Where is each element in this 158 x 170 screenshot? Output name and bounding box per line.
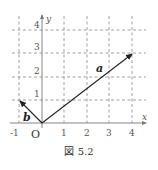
x-tick-neg1: -1	[10, 128, 19, 138]
y-tick-2: 2	[34, 66, 40, 76]
y-tick-1: 1	[34, 89, 40, 99]
y-tick-3: 3	[34, 42, 40, 52]
vector-b-label: b	[23, 111, 31, 124]
origin-label: O	[31, 128, 40, 141]
x-tick-2: 2	[84, 128, 90, 138]
vector-a	[42, 54, 132, 123]
x-tick-4: 4	[129, 128, 135, 138]
y-axis-label: y	[45, 14, 52, 24]
y-tick-4: 4	[34, 20, 40, 30]
x-tick-3: 3	[106, 128, 112, 138]
vector-a-label: a	[96, 62, 103, 75]
x-tick-1: 1	[61, 128, 67, 138]
figure-caption: 図 5.2	[0, 143, 158, 158]
x-axis-label: x	[142, 112, 147, 122]
grid	[12, 16, 146, 123]
